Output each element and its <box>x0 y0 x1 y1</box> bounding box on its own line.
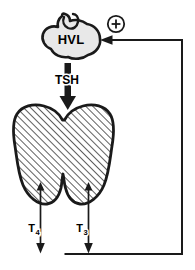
hormone-label-t4: T 4 <box>28 222 40 237</box>
hormone-label-t3: T 3 <box>76 222 87 237</box>
hormone-label-t3-text: T <box>76 222 83 234</box>
pituitary-label: HVL <box>58 32 85 47</box>
down-arrow-icon <box>84 243 93 254</box>
thyroid-regulation-diagram: HVL TSH T <box>0 0 195 270</box>
hormone-label-t3-subscript: 3 <box>84 228 88 237</box>
left-arrow-icon <box>100 35 113 45</box>
circle-plus-icon <box>108 16 124 32</box>
hormone-label-t4-text: T <box>28 222 35 234</box>
tsh-label: TSH <box>55 73 79 87</box>
thyroid-gland-icon <box>13 105 113 204</box>
diagram-canvas: HVL TSH T <box>0 0 195 270</box>
down-arrow-icon <box>36 243 45 254</box>
